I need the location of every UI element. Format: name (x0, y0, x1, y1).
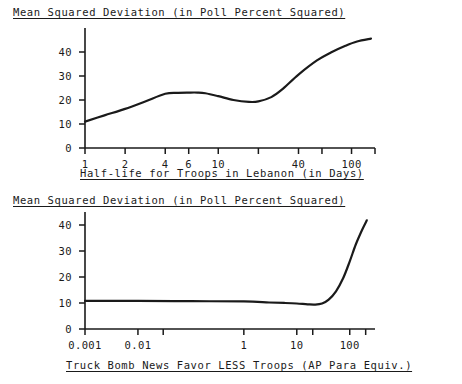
x-tick-label: 6 (185, 158, 192, 170)
chart-panel-top: Mean Squared Deviation (in Poll Percent … (0, 0, 462, 192)
y-tick-label: 20 (59, 94, 72, 106)
y-tick-label: 20 (59, 271, 72, 283)
y-tick-label: 30 (59, 70, 72, 82)
y-tick-label: 30 (59, 245, 72, 257)
plot-area-top: 12461040100010203040 (0, 0, 462, 192)
x-tick-label: 40 (292, 158, 305, 170)
x-tick-label: 2 (122, 158, 129, 170)
x-tick-label: 10 (212, 158, 225, 170)
y-tick-label: 40 (59, 46, 72, 58)
x-tick-label: 4 (162, 158, 169, 170)
chart-panel-bottom: Mean Squared Deviation (in Poll Percent … (0, 188, 462, 384)
x-tick-label: 0.001 (68, 339, 102, 351)
y-tick-label: 0 (65, 323, 72, 335)
y-tick-label: 10 (59, 297, 72, 309)
x-tick-label: 100 (341, 158, 361, 170)
y-tick-label: 40 (59, 219, 72, 231)
x-tick-label: 1 (240, 339, 247, 351)
y-tick-label: 10 (59, 118, 72, 130)
data-series-line (85, 220, 367, 304)
y-tick-label: 0 (65, 142, 72, 154)
x-tick-label: 100 (340, 339, 360, 351)
x-tick-label: 10 (290, 339, 303, 351)
data-series-line (85, 39, 371, 122)
plot-area-bottom: 0.0010.01110100010203040 (0, 188, 462, 384)
x-tick-label: 1 (82, 158, 89, 170)
x-tick-label: 0.01 (125, 339, 152, 351)
